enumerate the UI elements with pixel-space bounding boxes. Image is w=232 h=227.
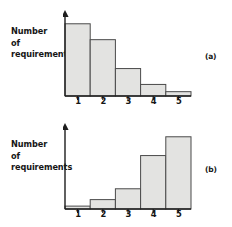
bar-2: [90, 40, 115, 96]
x-tick-label-3: 3: [122, 96, 136, 106]
y-axis-label-line-2: of: [11, 38, 63, 50]
x-tick-label-1: 1: [71, 209, 85, 219]
panel-tag-a: (a): [205, 52, 216, 61]
y-axis-label-line-3: requirements: [11, 49, 63, 61]
x-tick-label-2: 2: [96, 209, 110, 219]
y-axis-label-line-1: Number: [11, 139, 63, 151]
bar-2: [90, 200, 115, 209]
x-tick-label-4: 4: [147, 96, 161, 106]
bars-a: [65, 24, 191, 96]
y-axis-label-a: Number of requirements: [11, 26, 63, 61]
y-axis-label-line-2: of: [11, 151, 63, 163]
y-axis-arrow-a: [63, 10, 69, 17]
figure-panel-b: Number of requirements (b) 12345: [0, 113, 232, 226]
x-tick-label-5: 5: [172, 209, 186, 219]
y-axis-arrow-b: [63, 123, 69, 130]
bar-5: [166, 137, 191, 209]
x-tick-label-2: 2: [96, 96, 110, 106]
x-tick-labels-b: 12345: [63, 209, 195, 223]
bar-3: [115, 189, 140, 209]
y-axis-label-line-3: requirements: [11, 162, 63, 174]
bar-1: [65, 24, 90, 96]
panel-tag-b: (b): [205, 165, 217, 174]
bar-3: [115, 69, 140, 96]
x-tick-labels-a: 12345: [63, 96, 195, 110]
x-tick-label-4: 4: [147, 209, 161, 219]
y-axis-label-b: Number of requirements: [11, 139, 63, 174]
histogram-a: [63, 8, 195, 104]
x-tick-label-1: 1: [71, 96, 85, 106]
figure-panel-a: Number of requirements (a) 12345: [0, 0, 232, 113]
plot-area-a: [63, 8, 193, 104]
histogram-b: [63, 121, 195, 217]
x-tick-label-5: 5: [172, 96, 186, 106]
y-axis-label-line-1: Number: [11, 26, 63, 38]
bar-4: [141, 156, 166, 209]
x-tick-label-3: 3: [122, 209, 136, 219]
bar-4: [141, 84, 166, 96]
bars-b: [65, 137, 191, 209]
plot-area-b: [63, 121, 193, 217]
